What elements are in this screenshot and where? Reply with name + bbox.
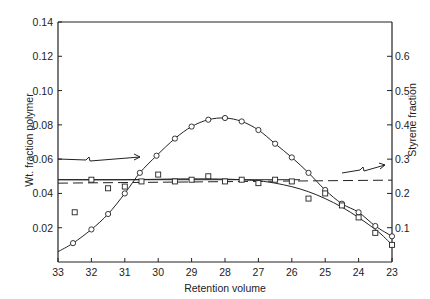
plot-frame <box>58 22 392 262</box>
x-axis-ticks: 3332313029282726252423 <box>52 258 398 278</box>
x-tick-label: 25 <box>319 266 331 278</box>
square-marker <box>273 177 278 182</box>
fitted-curves <box>58 118 392 252</box>
y2-tick-label: 0.1 <box>395 222 410 234</box>
square-marker <box>156 172 161 177</box>
circle-marker <box>373 223 378 228</box>
arrow-left-annotation <box>58 157 140 161</box>
chart: 3332313029282726252423 0.020.040.060.080… <box>0 0 430 299</box>
square-marker <box>106 186 111 191</box>
square-marker <box>373 230 378 235</box>
y-tick-label: 0.06 <box>33 153 54 165</box>
circle-marker <box>356 210 361 215</box>
y-tick-label: 0.10 <box>33 85 54 97</box>
x-tick-label: 29 <box>186 266 198 278</box>
x-tick-label: 32 <box>86 266 98 278</box>
square-marker <box>223 179 228 184</box>
circle-marker <box>289 155 294 160</box>
x-tick-label: 33 <box>52 266 64 278</box>
square-marker <box>306 196 311 201</box>
square-marker <box>189 177 194 182</box>
annotation-arrows <box>58 154 385 173</box>
x-axis-label: Retention volume <box>184 282 266 294</box>
y-tick-label: 0.08 <box>33 119 54 131</box>
square-marker <box>122 184 127 189</box>
circle-marker <box>239 119 244 124</box>
circle-marker <box>222 115 227 120</box>
circle-marker <box>189 124 194 129</box>
x-tick-label: 26 <box>286 266 298 278</box>
x-tick-label: 24 <box>353 266 365 278</box>
circle-marker <box>306 170 311 175</box>
circle-marker <box>70 241 75 246</box>
y-axis-label: Wt. fraction polymer <box>23 93 35 187</box>
circle-marker <box>89 227 94 232</box>
square-marker <box>139 179 144 184</box>
square-marker <box>239 177 244 182</box>
circle-marker <box>389 234 394 239</box>
x-tick-label: 27 <box>253 266 265 278</box>
square-marker <box>206 174 211 179</box>
square-marker <box>256 181 261 186</box>
y2-tick-label: 0.2 <box>395 187 410 199</box>
y2-axis-label: Styrene fraction <box>406 83 418 157</box>
x-tick-label: 28 <box>219 266 231 278</box>
circle-marker <box>256 127 261 132</box>
square-marker <box>172 179 177 184</box>
circle-marker <box>172 136 177 141</box>
square-marker <box>356 215 361 220</box>
circle-marker <box>106 211 111 216</box>
arrow-right-annotation <box>342 165 385 173</box>
square-marker <box>339 203 344 208</box>
x-tick-label: 31 <box>119 266 131 278</box>
y-tick-label: 0.04 <box>33 187 54 199</box>
square-marker <box>289 179 294 184</box>
y2-tick-label: 0.6 <box>395 50 410 62</box>
circle-marker <box>206 117 211 122</box>
square-marker <box>390 242 395 247</box>
square-marker <box>89 177 94 182</box>
y-tick-label: 0.14 <box>33 16 54 28</box>
y-tick-label: 0.02 <box>33 222 54 234</box>
square-marker <box>72 210 77 215</box>
x-tick-label: 30 <box>152 266 164 278</box>
square-marker <box>323 191 328 196</box>
x-tick-label: 23 <box>386 266 398 278</box>
circle-marker <box>137 170 142 175</box>
circle-marker <box>122 191 127 196</box>
circle-marker <box>154 153 159 158</box>
y-tick-label: 0.12 <box>33 50 54 62</box>
circle-marker <box>273 141 278 146</box>
